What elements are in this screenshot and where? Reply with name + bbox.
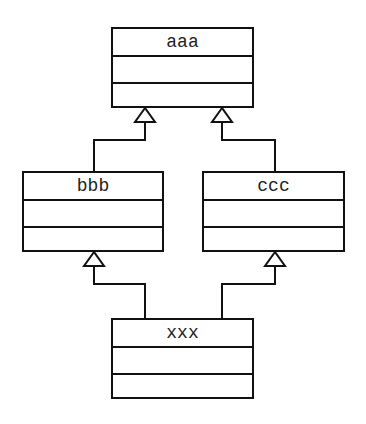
class-xxx[interactable]: xxx bbox=[111, 318, 254, 399]
operations-section bbox=[113, 375, 252, 400]
edge-ccc-aaa bbox=[222, 122, 275, 171]
class-ccc[interactable]: ccc bbox=[202, 171, 345, 252]
class-name: aaa bbox=[113, 29, 252, 57]
edge-xxx-bbb bbox=[94, 266, 145, 318]
edge-xxx-ccc bbox=[222, 266, 275, 318]
attributes-section bbox=[113, 348, 252, 375]
generalization-arrow-icon bbox=[135, 108, 155, 122]
class-aaa[interactable]: aaa bbox=[111, 27, 254, 108]
operations-section bbox=[204, 228, 343, 253]
class-name: xxx bbox=[113, 320, 252, 348]
attributes-section bbox=[24, 201, 162, 228]
class-bbb[interactable]: bbb bbox=[22, 171, 164, 252]
operations-section bbox=[113, 84, 252, 109]
generalization-arrow-icon bbox=[84, 252, 104, 266]
attributes-section bbox=[204, 201, 343, 228]
edge-bbb-aaa bbox=[94, 122, 145, 171]
attributes-section bbox=[113, 57, 252, 84]
generalization-arrow-icon bbox=[212, 108, 232, 122]
operations-section bbox=[24, 228, 162, 253]
class-name: bbb bbox=[24, 173, 162, 201]
class-name: ccc bbox=[204, 173, 343, 201]
generalization-arrow-icon bbox=[265, 252, 285, 266]
